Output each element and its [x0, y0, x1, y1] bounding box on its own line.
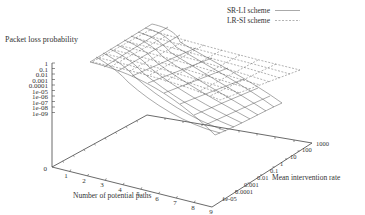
legend-label-sr-li: SR-LI scheme — [227, 6, 271, 15]
y-axis: 1e-05 0.0001 0.001 0.01 0.1 1 10 100 100… — [222, 140, 341, 202]
legend: SR-LI scheme LR-SI scheme — [227, 6, 300, 25]
z-tick: 1e-09 — [32, 110, 48, 118]
x-tick: 7 — [173, 199, 177, 207]
x-tick: 1 — [64, 172, 68, 180]
surface-lr-si — [92, 30, 300, 100]
y-tick: 1 — [280, 160, 283, 167]
y-tick: 1000 — [316, 140, 329, 147]
x-axis-label: Number of potential paths — [73, 191, 152, 200]
x-tick: 9 — [209, 208, 213, 214]
x-tick: 2 — [82, 177, 86, 185]
x-tick: 8 — [191, 204, 195, 212]
x-tick: 6 — [155, 195, 159, 203]
origin-label: 0 — [44, 165, 48, 173]
x-axis: 1 2 3 4 5 6 7 8 9 Number of potential pa… — [64, 170, 213, 215]
y-tick: 0.01 — [257, 174, 268, 181]
y-tick: 1e-05 — [222, 195, 237, 202]
z-axis: 1 0.1 0.01 0.001 0.0001 1e-05 1e-06 1e-0… — [29, 60, 55, 173]
surface-sr-li — [90, 24, 282, 135]
y-tick: 10 — [290, 153, 297, 160]
y-tick: 0.0001 — [235, 188, 253, 195]
y-tick: 100 — [302, 146, 312, 153]
x-tick: 3 — [100, 181, 104, 189]
y-axis-label: Mean intervention rate — [272, 173, 341, 182]
y-tick: 0.001 — [244, 181, 259, 188]
legend-label-lr-si: LR-SI scheme — [227, 16, 271, 25]
z-axis-label: Packet loss probability — [5, 35, 78, 44]
surface-plot: Packet loss probability SR-LI scheme LR-… — [0, 0, 365, 214]
